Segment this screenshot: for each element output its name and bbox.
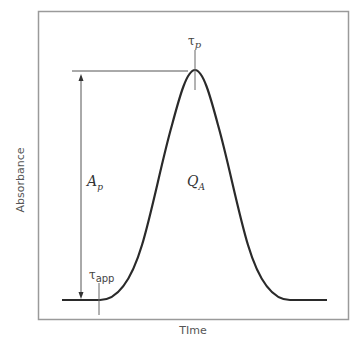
arrow-up-icon: [79, 74, 84, 81]
peak-area-subscript: A: [198, 182, 205, 192]
arrow-down-icon: [79, 292, 84, 299]
peak-time-symbol: τ: [188, 34, 195, 48]
peak-time-label: τp: [188, 34, 201, 50]
peak-time-subscript: p: [195, 39, 201, 50]
appearance-time-subscript: app: [96, 273, 115, 284]
appearance-time-label: τapp: [89, 268, 114, 284]
x-axis-label: TIme: [179, 324, 206, 337]
plot-frame: [39, 12, 349, 320]
peak-area-symbol: Q: [187, 173, 198, 189]
peak-height-subscript: p: [97, 182, 103, 192]
peak-height-symbol: A: [87, 173, 97, 189]
peak-diagram: Absorbance TIme Ap QA τp τapp: [0, 0, 359, 345]
peak-area-label: QA: [187, 173, 205, 192]
appearance-time-symbol: τ: [89, 268, 96, 282]
diagram-canvas: [0, 0, 359, 345]
peak-height-label: Ap: [87, 173, 103, 192]
y-axis-label: Absorbance: [14, 147, 27, 212]
